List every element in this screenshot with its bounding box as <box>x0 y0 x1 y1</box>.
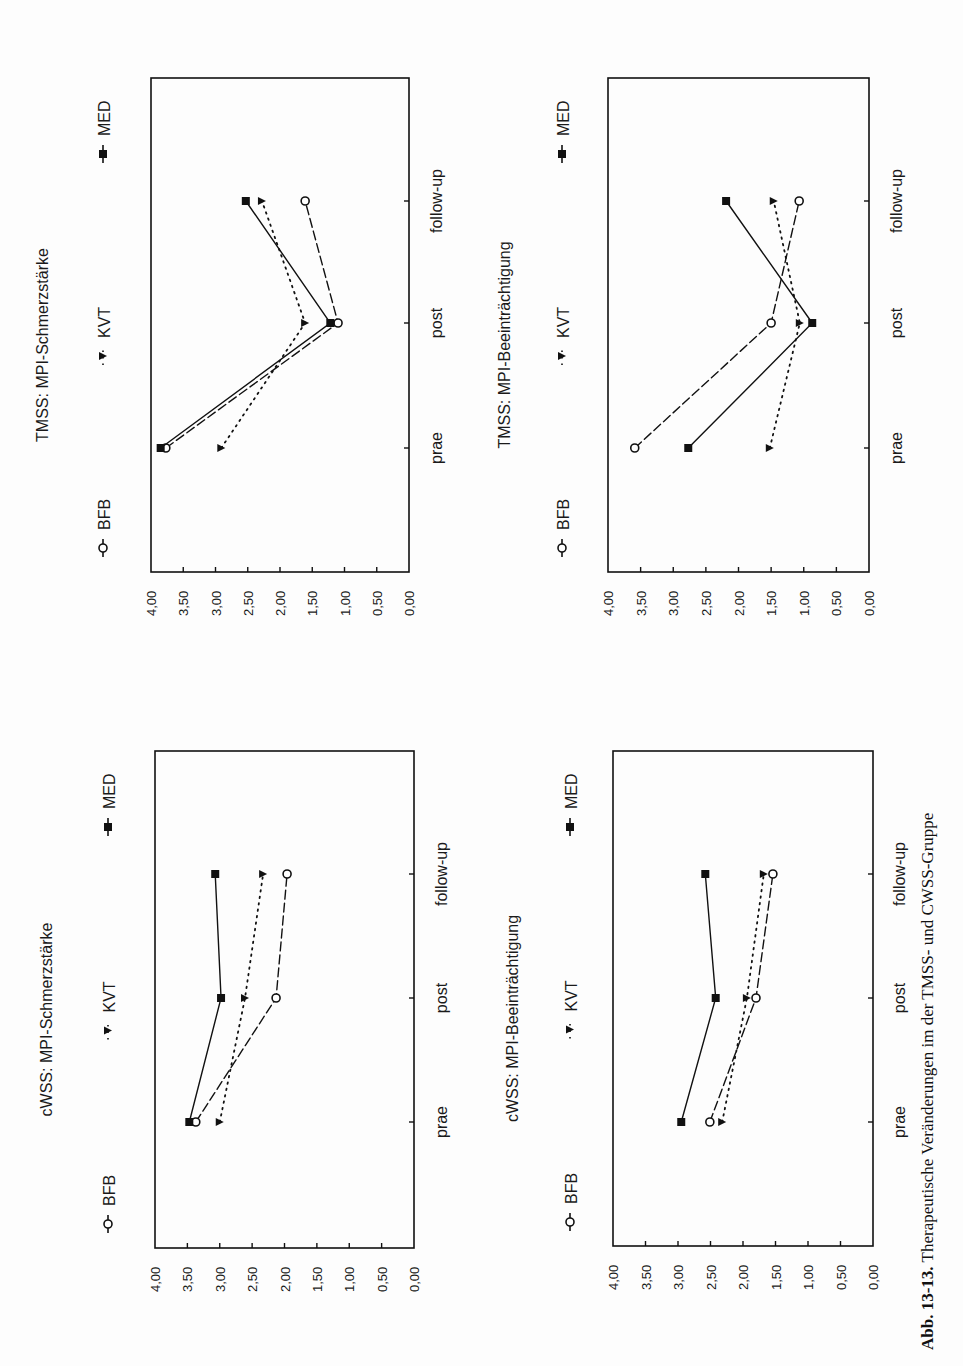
data-point <box>701 870 709 878</box>
data-point <box>718 1118 726 1126</box>
legend-label-kvt: KVT <box>563 980 580 1011</box>
data-point <box>712 994 720 1002</box>
series-med <box>677 870 719 1126</box>
chart-cwss-beeintraechtigung: cWSS: MPI-BeeinträchtigungBFBKVTMED4,003… <box>0 0 963 1366</box>
category-label-prae: prae <box>891 1106 908 1138</box>
caption-text: Therapeutische Veränderungen im der TMSS… <box>918 813 937 1263</box>
tick-label: 0,50 <box>834 1265 849 1290</box>
legend-marker-bfb <box>566 1218 574 1226</box>
chart-title: cWSS: MPI-Beeinträchtigung <box>504 915 521 1122</box>
tick-label: 1,00 <box>801 1265 816 1290</box>
category-label-post: post <box>891 982 908 1013</box>
data-point <box>706 1118 714 1126</box>
data-point <box>677 1118 685 1126</box>
series-line <box>681 874 715 1122</box>
legend-label-bfb: BFB <box>563 1173 580 1204</box>
tick-label: 4,00 <box>606 1265 621 1290</box>
legend-marker-med <box>566 823 574 831</box>
tick-label: 2,50 <box>704 1265 719 1290</box>
tick-label: 2,00 <box>736 1265 751 1290</box>
legend: BFBKVTMED <box>563 773 580 1231</box>
tick-label: 3,00 <box>671 1265 686 1290</box>
data-point <box>752 994 760 1002</box>
data-point <box>769 870 777 878</box>
figure-caption: Abb. 13-13. Therapeutische Veränderungen… <box>918 813 938 1350</box>
tick-label: 0,00 <box>866 1265 881 1290</box>
document-page: TMSS: MPI-SchmerzstärkeBFBKVTMED4,003,50… <box>0 0 963 1366</box>
category-label-follow-up: follow-up <box>891 842 908 906</box>
legend-marker-kvt <box>566 1026 574 1034</box>
legend-label-med: MED <box>563 773 580 809</box>
caption-label: Abb. 13-13. <box>918 1266 937 1350</box>
tick-label: 3,50 <box>639 1265 654 1290</box>
tick-label: 1,50 <box>769 1265 784 1290</box>
